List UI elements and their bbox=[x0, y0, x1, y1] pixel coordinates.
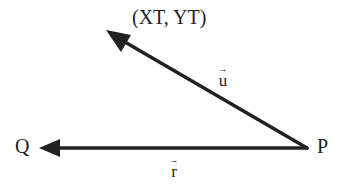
target-point-label: (XT, YT) bbox=[132, 6, 206, 29]
vector-r-arrowhead bbox=[39, 139, 60, 157]
vector-r-label: → r bbox=[168, 156, 180, 180]
point-p-label: P bbox=[317, 135, 328, 158]
vector-u-line bbox=[118, 38, 307, 148]
vector-u-arrowhead bbox=[106, 30, 131, 52]
point-q-label: Q bbox=[15, 135, 29, 158]
vector-u-label: → u bbox=[217, 65, 229, 89]
